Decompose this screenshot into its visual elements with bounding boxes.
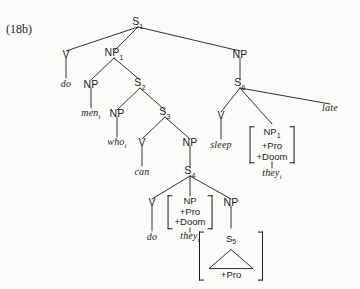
node-np-s4: NP: [183, 137, 198, 148]
terminal-do-bottom: do: [147, 232, 157, 242]
node-np-right: NP: [233, 49, 248, 60]
tree-branch-lines: [0, 0, 360, 289]
matrix-head: NP: [175, 196, 206, 207]
matrix-feature-doom: +Doom: [257, 152, 288, 163]
node-s6: S6: [234, 77, 245, 90]
node-v-sleep: V: [217, 110, 224, 121]
feature-matrix-right-np1: NP1 +Pro +Doom: [250, 126, 295, 163]
ellipsis-triangle-icon: [207, 248, 255, 270]
node-s2: S2: [134, 77, 145, 90]
feature-matrix-s5-triangle: S5 +Pro: [199, 232, 263, 281]
node-v-do-bottom: V: [148, 197, 155, 208]
node-np-s5: NP: [224, 197, 239, 208]
node-s4: S4: [184, 165, 195, 178]
feature-matrix-lower-np: NP +Pro +Doom: [168, 195, 213, 229]
bracket-right: [207, 195, 212, 229]
matrix-feature-pro: +Pro: [207, 269, 255, 279]
node-v-do-top: V: [62, 49, 69, 60]
matrix-feature-doom: +Doom: [175, 217, 206, 228]
syntax-tree-figure: (18b): [0, 0, 360, 289]
node-np1: NP1: [104, 47, 123, 60]
terminal-can: can: [134, 167, 149, 177]
terminal-late: late: [322, 103, 338, 113]
node-np-who: NP: [110, 108, 125, 119]
terminal-sleep: sleep: [210, 140, 232, 150]
node-np-men: NP: [84, 79, 99, 90]
node-s3: S3: [159, 106, 170, 119]
node-s1: S1: [132, 16, 143, 29]
node-s5: S5: [207, 233, 255, 248]
terminal-men: meni: [81, 108, 100, 121]
bracket-right: [258, 232, 263, 281]
terminal-they-bottom: theyi: [180, 231, 200, 244]
matrix-head: NP1: [257, 127, 288, 141]
terminal-do-top: do: [61, 79, 71, 89]
node-v-can: V: [138, 137, 145, 148]
bracket-right: [289, 126, 294, 163]
terminal-they-right: theyi: [262, 168, 282, 181]
terminal-who: whoi: [107, 137, 126, 150]
